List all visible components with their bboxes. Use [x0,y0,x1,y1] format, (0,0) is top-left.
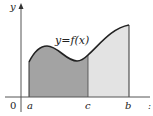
region-a-to-c [29,46,88,97]
curve-label: y=f(x) [54,34,89,47]
point-b-label: b [125,100,131,111]
x-axis-hint: : [148,101,151,111]
origin-label: 0 [10,100,16,111]
y-axis-label: y [9,1,16,12]
point-c-label: c [85,100,91,111]
y-axis-arrow-icon [19,3,24,9]
point-a-label: a [27,100,33,111]
integral-diagram: y y=f(x) 0 a c b : [0,0,153,116]
